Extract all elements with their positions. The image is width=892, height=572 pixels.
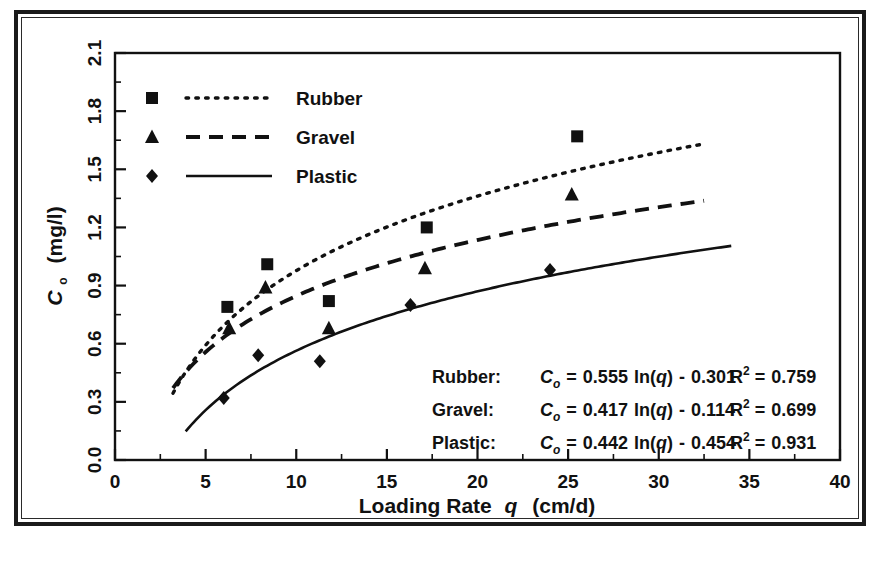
r-exponent: 2 [743,430,750,444]
r-equals: = [755,433,766,453]
eq-fn: ln( [634,433,656,453]
y-tick-label: 0.9 [84,272,105,298]
y-axis-ticks [115,53,126,460]
equation-block: Rubber:Co=0.555ln(q)-0.301R2=0.759Gravel… [432,364,816,457]
eq-minus: - [679,400,685,420]
legend-label-gravel: Gravel [296,127,355,148]
data-point-rubber [571,130,583,142]
x-tick-label: 25 [558,471,580,492]
x-tick-label: 40 [829,471,850,492]
eq-minus: - [679,433,685,453]
r-exponent: 2 [743,397,750,411]
y-axis-title-sub: o [56,277,70,284]
legend-marker-gravel [145,130,159,144]
x-axis-title: Loading Rate q (cm/d) [359,494,596,517]
eq-equals: = [566,400,577,420]
x-tick-label: 5 [200,471,211,492]
x-tick-label: 15 [376,471,398,492]
eq-slope: 0.555 [583,367,628,387]
y-axis-tick-labels: 0.00.30.60.91.21.51.82.1 [84,39,105,473]
data-point-rubber [323,295,335,307]
r-exponent: 2 [743,364,750,378]
y-axis-title-unit: (mg/l) [43,206,66,263]
eq-lhs-sub: o [553,377,560,391]
x-axis-title-var: q [505,494,518,517]
equation-r-squared: R2=0.759 [730,364,816,387]
eq-minus: - [679,367,685,387]
data-point-gravel [222,321,236,335]
eq-equals: = [566,433,577,453]
equation-expression: Co=0.555ln(q)-0.301 [540,367,736,391]
y-axis-title-var: C [43,290,66,306]
y-tick-label: 2.1 [84,39,105,66]
data-point-rubber [421,221,433,233]
figure-page: 0510152025303540 0.00.30.60.91.21.51.82.… [0,0,892,572]
equation-r-squared: R2=0.699 [730,397,816,420]
fit-curve-gravel [173,201,704,388]
equation-r-squared: R2=0.931 [730,430,816,453]
y-tick-label: 1.8 [84,98,105,124]
x-tick-label: 35 [739,471,761,492]
eq-lhs-sub: o [553,443,560,457]
eq-fn: ln( [634,400,656,420]
fit-curves [173,144,731,432]
data-point-plastic [314,354,326,368]
chart-svg: 0510152025303540 0.00.30.60.91.21.51.82.… [0,0,892,572]
data-point-gravel [418,261,432,275]
data-point-plastic [218,391,230,405]
eq-slope: 0.442 [583,433,628,453]
data-point-gravel [565,187,579,201]
equation-expression: Co=0.442ln(q)-0.454 [540,433,736,457]
eq-lhs-var: C [540,433,554,453]
eq-fn-close: ) [667,433,673,453]
y-tick-label: 1.2 [84,214,105,240]
eq-intercept: 0.114 [691,400,735,420]
data-point-rubber [221,301,233,313]
eq-fn-var: q [656,433,667,453]
r-label: R [730,433,743,453]
equation-name: Plastic: [432,433,496,453]
eq-slope: 0.417 [583,400,628,420]
r-label: R [730,367,743,387]
y-tick-label: 1.5 [84,156,105,183]
legend-label-plastic: Plastic [296,166,358,187]
r-value: 0.759 [771,367,816,387]
eq-fn: ln( [634,367,656,387]
eq-equals: = [566,367,577,387]
eq-lhs-var: C [540,400,554,420]
r-value: 0.931 [771,433,816,453]
x-axis-tick-labels: 0510152025303540 [110,471,851,492]
legend-marker-rubber [146,92,158,104]
legend: RubberGravelPlastic [145,88,363,187]
data-point-rubber [261,258,273,270]
equation-name: Rubber: [432,367,501,387]
legend-label-rubber: Rubber [296,88,363,109]
eq-lhs-sub: o [553,410,560,424]
y-tick-label: 0.6 [84,331,105,357]
eq-fn-close: ) [667,400,673,420]
y-tick-label: 0.3 [84,389,105,415]
x-tick-label: 30 [648,471,669,492]
y-tick-label: 0.0 [84,447,105,473]
r-label: R [730,400,743,420]
data-point-plastic [252,348,264,362]
legend-marker-plastic [146,169,158,183]
r-equals: = [755,400,766,420]
equation-expression: Co=0.417ln(q)-0.114 [540,400,735,424]
data-point-gravel [322,321,336,335]
y-axis-title: C o (mg/l) [43,206,71,305]
x-tick-label: 20 [467,471,488,492]
x-tick-label: 0 [110,471,121,492]
r-equals: = [755,367,766,387]
eq-fn-close: ) [667,367,673,387]
x-tick-label: 10 [286,471,307,492]
plot-area: 0510152025303540 0.00.30.60.91.21.51.82.… [0,0,892,572]
x-axis-title-main: Loading Rate [359,494,492,517]
eq-lhs-var: C [540,367,554,387]
r-value: 0.699 [771,400,816,420]
x-axis-title-unit: (cm/d) [532,494,595,517]
eq-fn-var: q [656,400,667,420]
eq-fn-var: q [656,367,667,387]
equation-name: Gravel: [432,400,494,420]
